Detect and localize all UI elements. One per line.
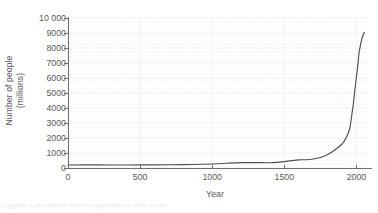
x-axis-line — [67, 168, 372, 169]
y-axis-tick-mark — [64, 63, 68, 64]
y-axis-tick-label: 7000 — [26, 59, 66, 68]
y-axis-tick-label: 2000 — [26, 134, 66, 143]
y-axis-tick-mark — [64, 78, 68, 79]
y-axis-tick-mark — [64, 33, 68, 34]
x-axis-title-text: Year — [206, 189, 224, 199]
y-axis-tick-label: 3000 — [26, 119, 66, 128]
x-axis-title: Year — [0, 189, 378, 199]
y-axis-tick-labels: 010002000300040005000600070008000900010 … — [26, 0, 66, 180]
y-axis-tick-label: 4000 — [26, 104, 66, 113]
y-axis-tick-label: 8000 — [26, 44, 66, 53]
x-axis-tick-mark — [212, 165, 213, 169]
y-axis-tick-mark — [64, 168, 68, 169]
clipped-caption-text: Figure Estimated world population over t… — [3, 204, 166, 209]
x-axis-tick-mark — [140, 165, 141, 169]
x-axis-tick-label: 500 — [133, 172, 148, 182]
y-axis-tick-mark — [64, 18, 68, 19]
x-axis-tick-label: 1000 — [202, 172, 222, 182]
data-curve-layer — [68, 18, 368, 168]
y-axis-tick-mark — [64, 138, 68, 139]
population-line-chart: Number of people (millions) 010002000300… — [0, 0, 378, 213]
world-population-curve — [68, 32, 364, 165]
x-axis-tick-mark — [284, 165, 285, 169]
y-axis-tick-mark — [64, 108, 68, 109]
y-axis-tick-mark — [64, 93, 68, 94]
x-axis-tick-mark — [356, 165, 357, 169]
y-axis-tick-label: 9000 — [26, 29, 66, 38]
clipped-caption: Figure Estimated world population over t… — [0, 204, 378, 213]
x-axis-tick-label: 2000 — [347, 172, 367, 182]
y-axis-tick-label: 5000 — [26, 89, 66, 98]
plot-area — [68, 18, 368, 168]
y-axis-tick-label: 0 — [26, 164, 66, 173]
y-axis-title-line2: (millions) — [15, 55, 26, 125]
y-axis-tick-mark — [64, 48, 68, 49]
y-axis-tick-mark — [64, 153, 68, 154]
y-axis-title-line1: Number of people — [5, 55, 15, 125]
x-axis-tick-label: 1500 — [275, 172, 295, 182]
y-axis-tick-mark — [64, 123, 68, 124]
x-axis-tick-label: 0 — [66, 172, 71, 182]
y-axis-tick-label: 6000 — [26, 74, 66, 83]
y-axis-tick-label: 10 000 — [26, 14, 66, 23]
x-axis-tick-mark — [68, 165, 69, 169]
y-axis-line — [68, 17, 69, 169]
y-axis-tick-label: 1000 — [26, 149, 66, 158]
